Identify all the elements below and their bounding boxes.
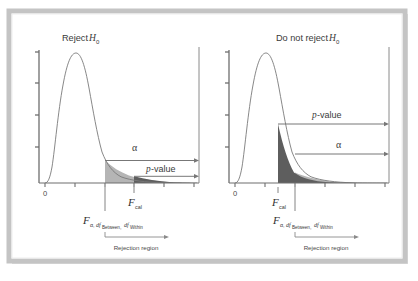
figure-inner (12, 14, 402, 258)
fcrit-sub-between-right: Between (292, 225, 310, 230)
fcrit-sub-within-left: Within (130, 225, 143, 230)
panel-reject-title: Reject (62, 33, 88, 43)
x-zero-label-right: 0 (233, 189, 237, 198)
fcal-variable-left: F (127, 196, 135, 208)
alpha-label-left: α (132, 142, 138, 153)
hypothesis-test-figure: Reject H 0 0 α p (0, 0, 418, 281)
fcrit-variable-right: F (272, 214, 280, 226)
panel-do-not-reject-title: Do not reject (276, 33, 329, 43)
fcrit-sub-alpha-right: α, (280, 222, 285, 228)
x-zero-label-left: 0 (43, 189, 47, 198)
pvalue-label-left-rest: -value (151, 164, 176, 174)
fcrit-sub-within-right: Within (320, 225, 333, 230)
fcal-subscript-left: cal (135, 204, 142, 210)
fcal-variable-right: F (271, 196, 279, 208)
figure-root: Reject H 0 0 α p (0, 0, 418, 281)
fcrit-variable-left: F (82, 214, 90, 226)
fcal-subscript-right: cal (279, 204, 286, 210)
rejection-region-label-right: Rejection region (304, 244, 349, 251)
fcrit-sub-alpha-left: α, (90, 222, 95, 228)
rejection-region-label-left: Rejection region (114, 244, 159, 251)
alpha-label-right: α (336, 139, 342, 150)
pvalue-label-right-rest: -value (317, 110, 342, 120)
fcrit-sub-between-left: Between (102, 225, 120, 230)
